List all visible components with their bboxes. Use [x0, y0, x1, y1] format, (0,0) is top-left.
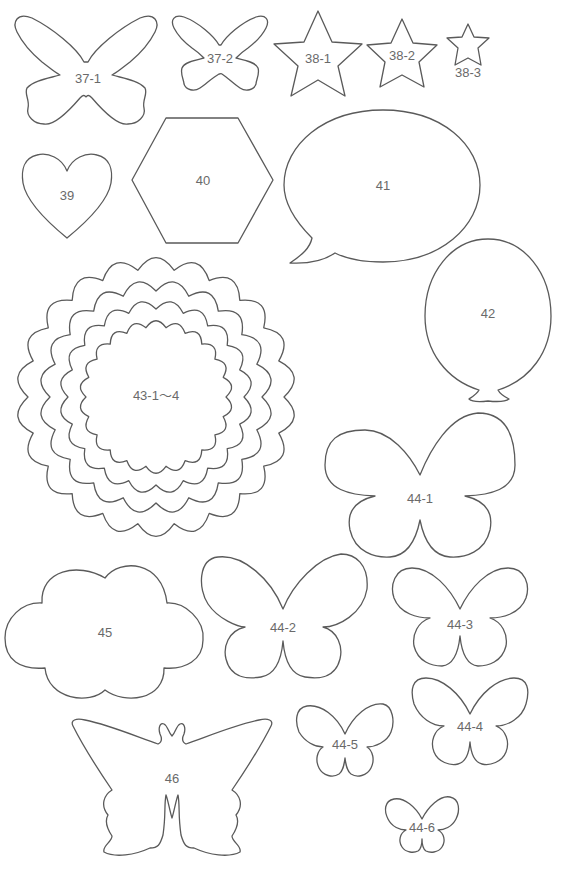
label-38-2: 38-2	[389, 48, 415, 63]
butterfly-44-5-shape: 44-5	[297, 704, 393, 776]
label-44-1: 44-1	[407, 491, 433, 506]
label-37-2: 37-2	[207, 51, 233, 66]
label-44-6: 44-6	[409, 820, 435, 835]
label-39: 39	[60, 188, 74, 203]
label-46: 46	[165, 771, 179, 786]
star-38-3-shape: 38-3	[447, 24, 489, 80]
label-45: 45	[98, 625, 112, 640]
label-43: 43-1～4	[133, 388, 179, 403]
cloud-45-shape: 45	[5, 566, 203, 698]
balloon-42-shape: 42	[425, 239, 551, 402]
swallowtail-butterfly-46-shape: 46	[72, 719, 272, 855]
template-sheet: 37-1 37-2 38-1 38-2 38-3 39 40 41 42	[0, 0, 564, 869]
label-41: 41	[376, 178, 390, 193]
template-canvas: 37-1 37-2 38-1 38-2 38-3 39 40 41 42	[0, 0, 564, 869]
butterfly-44-6-shape: 44-6	[386, 797, 459, 852]
butterfly-44-3-shape: 44-3	[393, 568, 528, 666]
butterfly-44-4-shape: 44-4	[412, 678, 528, 765]
label-44-4: 44-4	[457, 719, 483, 734]
butterfly-37-2-shape: 37-2	[172, 16, 267, 90]
label-42: 42	[481, 306, 495, 321]
label-44-3: 44-3	[447, 617, 473, 632]
label-38-1: 38-1	[305, 51, 331, 66]
label-37-1: 37-1	[75, 71, 101, 86]
scalloped-circles-43-shape: 43-1～4	[18, 258, 294, 537]
butterfly-37-1-shape: 37-1	[15, 16, 157, 124]
speech-bubble-41-shape: 41	[284, 110, 480, 263]
butterfly-44-2-shape: 44-2	[201, 554, 367, 678]
label-44-2: 44-2	[270, 620, 296, 635]
hexagon-40-shape: 40	[132, 118, 273, 243]
label-40: 40	[196, 173, 210, 188]
heart-39-shape: 39	[22, 154, 111, 238]
star-38-2-shape: 38-2	[367, 19, 437, 87]
label-44-5: 44-5	[332, 737, 358, 752]
star-38-1-shape: 38-1	[274, 11, 362, 96]
butterfly-44-1-shape: 44-1	[325, 413, 515, 557]
label-38-3: 38-3	[455, 65, 481, 80]
